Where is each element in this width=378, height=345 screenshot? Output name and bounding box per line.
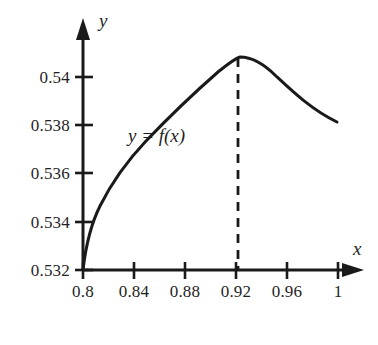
x-axis [83, 263, 364, 277]
x-tick-label-1: 1 [318, 282, 358, 302]
y-axis-label: y [99, 10, 107, 32]
x-tick-label-0.8: 0.8 [58, 282, 108, 302]
curve-equation-label: y = f(x) [128, 125, 185, 147]
x-tick-label-0.92: 0.92 [210, 282, 262, 302]
x-tick-label-0.96: 0.96 [261, 282, 313, 302]
y-axis [76, 18, 90, 270]
y-tick-label-0.534: 0.534 [2, 213, 70, 233]
y-tick-label-0.538: 0.538 [2, 116, 70, 136]
x-axis-label: x [353, 238, 361, 260]
y-tick-label-0.536: 0.536 [2, 164, 70, 184]
y-tick-label-0.54: 0.54 [2, 68, 70, 88]
x-tick-label-0.88: 0.88 [159, 282, 211, 302]
y-tick-label-0.532: 0.532 [2, 261, 70, 281]
function-graph-figure: 0.54 0.538 0.536 0.534 0.532 0.8 0.84 0.… [0, 0, 378, 345]
function-curve [83, 57, 337, 270]
x-tick-label-0.84: 0.84 [108, 282, 160, 302]
